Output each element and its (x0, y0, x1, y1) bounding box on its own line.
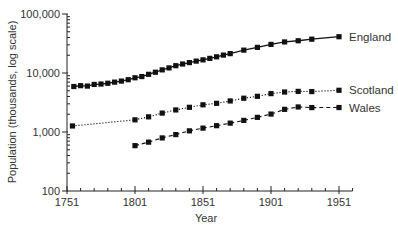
square-marker-icon (194, 59, 199, 64)
series-layer: EnglandScotlandWales (70, 31, 394, 149)
square-marker-icon (296, 104, 301, 109)
square-marker-icon (139, 74, 144, 79)
square-marker-icon (126, 77, 131, 82)
square-marker-icon (85, 83, 90, 88)
square-marker-icon (241, 48, 246, 53)
y-tick-label: 1,000 (32, 126, 60, 138)
series-line (74, 37, 339, 87)
square-marker-icon (255, 115, 260, 120)
square-marker-icon (160, 67, 165, 72)
square-marker-icon (105, 81, 110, 86)
square-marker-icon (255, 45, 260, 50)
square-marker-icon (221, 53, 226, 58)
square-marker-icon (309, 37, 314, 42)
square-marker-icon (173, 107, 178, 112)
x-tick-label: 1801 (123, 196, 147, 208)
square-marker-icon (309, 89, 314, 94)
square-marker-icon (241, 96, 246, 101)
x-tick-label: 1901 (259, 196, 283, 208)
square-marker-icon (309, 105, 314, 110)
square-marker-icon (132, 75, 137, 80)
square-marker-icon (268, 111, 273, 116)
square-marker-icon (92, 82, 97, 87)
series-line (135, 107, 339, 146)
square-marker-icon (173, 132, 178, 137)
series-england: England (71, 31, 391, 89)
y-axis-title: Population (thousands, log scale) (6, 21, 18, 184)
x-tick-label: 1851 (191, 196, 215, 208)
x-axis-title: Year (195, 212, 218, 224)
square-marker-icon (119, 78, 124, 83)
square-marker-icon (160, 110, 165, 115)
square-marker-icon (214, 54, 219, 59)
square-marker-icon (296, 89, 301, 94)
x-tick-label: 1751 (55, 196, 79, 208)
square-marker-icon (187, 60, 192, 65)
x-tick-label: 1951 (327, 196, 351, 208)
square-marker-icon (112, 80, 117, 85)
square-marker-icon (187, 128, 192, 133)
square-marker-icon (71, 84, 76, 89)
square-marker-icon (200, 102, 205, 107)
square-marker-icon (132, 143, 137, 148)
population-chart: 1001,00010,000100,000 175118011851190119… (0, 0, 398, 234)
square-marker-icon (336, 88, 341, 93)
series-label-england: England (349, 31, 391, 43)
square-marker-icon (98, 81, 103, 86)
square-marker-icon (187, 105, 192, 110)
square-marker-icon (282, 107, 287, 112)
square-marker-icon (153, 70, 158, 75)
square-marker-icon (160, 135, 165, 140)
square-marker-icon (228, 98, 233, 103)
square-marker-icon (132, 117, 137, 122)
x-axis: 17511801185119011951 (55, 186, 353, 208)
square-marker-icon (255, 94, 260, 99)
square-marker-icon (214, 101, 219, 106)
square-marker-icon (146, 114, 151, 119)
square-marker-icon (180, 61, 185, 66)
series-wales: Wales (132, 102, 380, 149)
square-marker-icon (268, 91, 273, 96)
y-tick-label: 100,000 (20, 8, 60, 20)
series-label-scotland: Scotland (349, 84, 394, 96)
square-marker-icon (241, 118, 246, 123)
square-marker-icon (228, 121, 233, 126)
square-marker-icon (282, 89, 287, 94)
series-label-wales: Wales (349, 102, 381, 114)
square-marker-icon (70, 123, 75, 128)
square-marker-icon (207, 56, 212, 61)
square-marker-icon (200, 126, 205, 131)
square-marker-icon (146, 72, 151, 77)
square-marker-icon (173, 63, 178, 68)
square-marker-icon (166, 65, 171, 70)
square-marker-icon (200, 57, 205, 62)
square-marker-icon (336, 105, 341, 110)
square-marker-icon (282, 39, 287, 44)
square-marker-icon (146, 140, 151, 145)
square-marker-icon (214, 123, 219, 128)
square-marker-icon (268, 42, 273, 47)
square-marker-icon (296, 38, 301, 43)
y-tick-label: 10,000 (26, 67, 60, 79)
y-axis: 1001,00010,000100,000 (20, 8, 70, 197)
square-marker-icon (336, 34, 341, 39)
square-marker-icon (228, 51, 233, 56)
square-marker-icon (78, 83, 83, 88)
